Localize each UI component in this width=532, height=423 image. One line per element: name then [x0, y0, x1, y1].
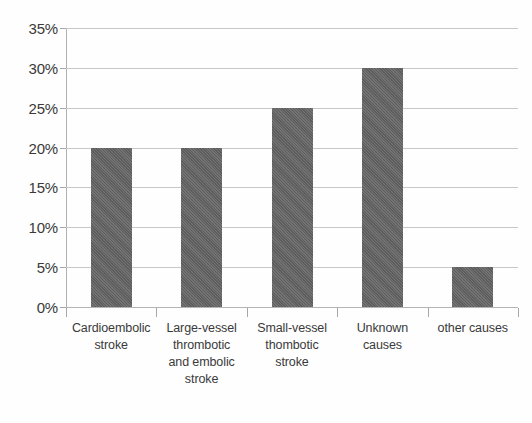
- y-axis-tick-mark: [60, 108, 66, 109]
- x-axis-tick-mark: [518, 308, 519, 317]
- x-axis-category-label-line: other causes: [428, 320, 518, 337]
- x-axis-category-label-line: and embolic: [156, 354, 246, 371]
- x-axis-category-label: Small-vesselthomboticstroke: [247, 320, 337, 371]
- gridline: [66, 28, 518, 29]
- x-axis-category-label: Unknowncauses: [337, 320, 427, 354]
- x-axis-category-label-line: stroke: [66, 337, 156, 354]
- x-axis-category-label: Large-vesselthromboticand embolicstroke: [156, 320, 246, 388]
- x-axis-tick-mark: [156, 308, 157, 317]
- y-axis-tick-mark: [60, 148, 66, 149]
- x-axis-tick-mark: [337, 308, 338, 317]
- y-axis-tick-label: 10%: [0, 220, 58, 235]
- bar: [452, 267, 493, 307]
- bar: [181, 148, 222, 307]
- x-axis-tick-mark: [247, 308, 248, 317]
- gridline: [66, 68, 518, 69]
- gridline: [66, 307, 518, 308]
- y-axis-tick-label: 25%: [0, 100, 58, 115]
- y-axis-tick-mark: [60, 187, 66, 188]
- y-axis-tick-mark: [60, 267, 66, 268]
- x-axis-category-label-line: Large-vessel: [156, 320, 246, 337]
- x-axis-category-label-line: causes: [337, 337, 427, 354]
- bar: [362, 68, 403, 307]
- x-axis-category-label: Cardioembolicstroke: [66, 320, 156, 354]
- x-axis-category-label-line: thrombotic: [156, 337, 246, 354]
- y-axis: 0%5%10%15%20%25%30%35%: [0, 0, 58, 423]
- y-axis-tick-label: 5%: [0, 260, 58, 275]
- x-axis-category-label-line: Unknown: [337, 320, 427, 337]
- y-axis-tick-label: 35%: [0, 21, 58, 36]
- y-axis-tick-mark: [60, 68, 66, 69]
- x-axis-category-label-line: Small-vessel: [247, 320, 337, 337]
- y-axis-tick-mark: [60, 28, 66, 29]
- x-axis-category-label-line: Cardioembolic: [66, 320, 156, 337]
- x-axis-category-label: other causes: [428, 320, 518, 337]
- x-axis: CardioembolicstrokeLarge-vesselthromboti…: [66, 320, 518, 420]
- x-axis-tick-mark: [66, 308, 67, 317]
- x-axis-category-label-line: stroke: [156, 371, 246, 388]
- bar: [272, 108, 313, 307]
- bar-chart: 0%5%10%15%20%25%30%35% Cardioembolicstro…: [0, 0, 532, 423]
- bar: [91, 148, 132, 307]
- x-axis-category-label-line: stroke: [247, 354, 337, 371]
- plot-area: [66, 28, 518, 307]
- y-axis-tick-label: 0%: [0, 300, 58, 315]
- y-axis-tick-label: 20%: [0, 140, 58, 155]
- x-axis-category-label-line: thombotic: [247, 337, 337, 354]
- y-axis-tick-label: 15%: [0, 180, 58, 195]
- y-axis-tick-mark: [60, 227, 66, 228]
- y-axis-tick-label: 30%: [0, 60, 58, 75]
- x-axis-tick-mark: [428, 308, 429, 317]
